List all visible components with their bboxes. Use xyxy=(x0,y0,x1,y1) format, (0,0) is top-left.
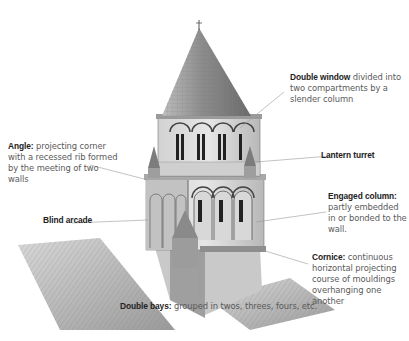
label-blind-arcade: Blind arcade xyxy=(43,215,92,226)
label-double-bays: Double bays: grouped in twos, threes, fo… xyxy=(120,301,360,312)
term-engaged-column: Engaged column: xyxy=(328,191,397,201)
label-cornice: Cornice: continuous horizontal projectin… xyxy=(312,252,404,307)
roof-left xyxy=(18,238,175,330)
label-engaged-column: Engaged column: partly embedded in or bo… xyxy=(328,191,408,235)
desc-engaged-column: partly embedded in or bonded to the wall… xyxy=(328,202,407,234)
term-cornice: Cornice: xyxy=(312,252,345,262)
conical-spire xyxy=(162,20,251,116)
term-blind-arcade: Blind arcade xyxy=(43,215,92,225)
label-double-window: Double window divided into two compartme… xyxy=(290,72,409,105)
term-double-window: Double window xyxy=(290,72,350,82)
term-lantern-turret: Lantern turret xyxy=(321,150,375,160)
label-angle: Angle: projecting corner with a recessed… xyxy=(8,141,120,185)
desc-double-bays: grouped in twos, threes, fours, etc. xyxy=(171,301,317,311)
term-double-bays: Double bays: xyxy=(120,301,171,311)
label-lantern-turret: Lantern turret xyxy=(321,150,375,161)
term-angle: Angle: xyxy=(8,141,33,151)
lower-story xyxy=(144,174,266,252)
